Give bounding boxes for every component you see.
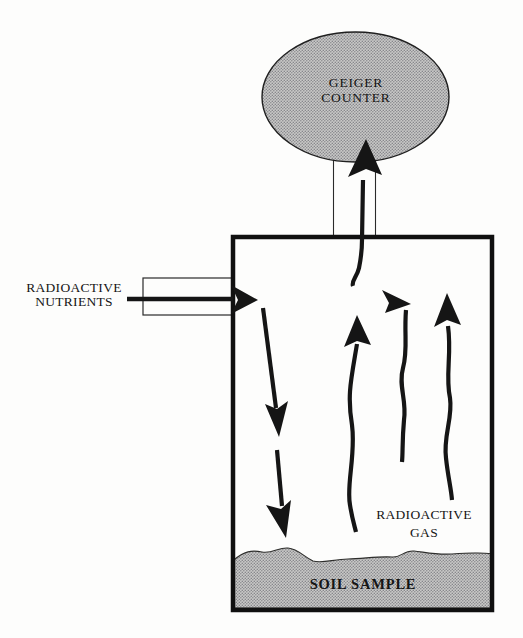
gas-label-line1: RADIOACTIVE [376, 507, 472, 522]
gas-rise-arrow-middle [344, 315, 371, 532]
soil-sample-label: SOIL SAMPLE [310, 576, 417, 592]
nutrient-drop-arrow-upper [263, 308, 288, 437]
gas-label-line2: GAS [410, 525, 438, 540]
nutrient-drop-arrow-lower [266, 450, 291, 538]
gas-rise-arrow-right-angled [382, 290, 411, 462]
nutrient-inlet-port [143, 278, 233, 315]
diagram-canvas: GEIGER COUNTER SOIL SAMPLE [0, 0, 523, 638]
labeled-release-experiment-diagram: GEIGER COUNTER SOIL SAMPLE [0, 0, 523, 638]
nutrients-label-line2: NUTRIENTS [35, 294, 113, 309]
nutrients-label-line1: RADIOACTIVE [26, 280, 122, 295]
geiger-counter-label-line1: GEIGER [329, 75, 383, 90]
nutrient-injection-arrow [127, 285, 258, 314]
gas-rise-arrow-far-right [434, 293, 461, 500]
geiger-counter-label-line2: COUNTER [321, 90, 390, 105]
